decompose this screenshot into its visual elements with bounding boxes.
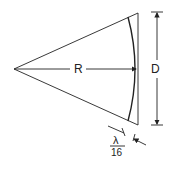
tolerance-arrow-right [134, 139, 146, 145]
diagram-lines [0, 0, 172, 169]
tolerance-denominator: 16 [111, 148, 122, 158]
tolerance-leader-left [108, 126, 124, 133]
radius-label: R [73, 63, 84, 75]
tolerance-numerator: λ [113, 135, 119, 146]
sector-diagram: R D λ 16 [0, 0, 172, 169]
upper-edge-line [14, 13, 138, 69]
aperture-label: D [151, 63, 160, 75]
lower-edge-line [14, 69, 138, 125]
tolerance-tick-right [133, 134, 135, 141]
